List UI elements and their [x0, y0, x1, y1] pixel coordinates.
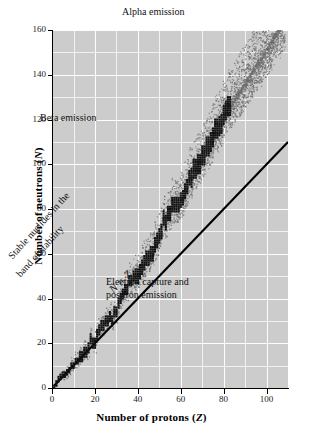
unstable-nuclide-point: [189, 150, 190, 151]
unstable-nuclide-point: [216, 107, 217, 108]
unstable-nuclide-point: [252, 73, 253, 74]
stable-nuclide-point: [165, 221, 167, 223]
stable-nuclide-point: [118, 306, 120, 308]
unstable-nuclide-point: [234, 96, 235, 97]
stable-nuclide-point: [85, 351, 87, 353]
stable-nuclide-point: [214, 127, 216, 129]
unstable-nuclide-point: [251, 77, 252, 78]
stable-nuclide-point: [105, 324, 107, 326]
stable-nuclide-point: [64, 376, 66, 378]
unstable-nuclide-point: [264, 62, 265, 63]
unstable-nuclide-point: [209, 130, 210, 131]
stable-nuclide-point: [210, 145, 212, 147]
unstable-nuclide-point: [177, 181, 178, 182]
unstable-nuclide-point: [161, 208, 162, 209]
unstable-nuclide-point: [255, 77, 256, 78]
unstable-nuclide-point: [254, 73, 255, 74]
unstable-nuclide-point: [176, 218, 177, 219]
unstable-nuclide-point: [245, 87, 246, 88]
unstable-nuclide-point: [250, 57, 251, 58]
stable-nuclide-point: [150, 246, 152, 248]
stable-nuclide-point: [178, 199, 180, 201]
unstable-nuclide-point: [137, 264, 138, 265]
stable-nuclide-point: [152, 255, 154, 257]
unstable-nuclide-point: [273, 33, 274, 34]
unstable-nuclide-point: [205, 126, 206, 127]
unstable-nuclide-point: [244, 69, 245, 70]
unstable-nuclide-point: [130, 266, 131, 267]
stable-nuclide-point: [154, 251, 156, 253]
unstable-nuclide-point: [168, 203, 169, 204]
unstable-nuclide-point: [111, 309, 112, 310]
stable-nuclide-point: [111, 324, 113, 326]
unstable-nuclide-point: [257, 43, 258, 44]
stable-nuclide-point: [229, 107, 231, 109]
stable-nuclide-point: [92, 342, 94, 344]
stable-nuclide-point: [167, 217, 169, 219]
unstable-nuclide-point: [260, 76, 261, 77]
stable-nuclide-point: [188, 174, 190, 176]
unstable-nuclide-point: [77, 357, 78, 358]
unstable-nuclide-point: [196, 186, 197, 187]
stable-nuclide-point: [171, 208, 173, 210]
stable-nuclide-point: [81, 360, 83, 362]
stable-nuclide-point: [109, 315, 111, 317]
stable-nuclide-point: [154, 242, 156, 244]
stable-nuclide-point: [216, 123, 218, 125]
stable-nuclide-point: [145, 259, 147, 261]
unstable-nuclide-point: [220, 98, 221, 99]
y-axis-tick-label: 20: [37, 337, 46, 347]
unstable-nuclide-point: [163, 203, 164, 204]
unstable-nuclide-point: [165, 235, 166, 236]
stable-nuclide-point: [225, 110, 227, 112]
stable-nuclide-point: [186, 192, 188, 194]
stable-nuclide-point: [68, 367, 70, 369]
stable-nuclide-point: [165, 226, 167, 228]
unstable-nuclide-point: [220, 142, 221, 143]
unstable-nuclide-point: [261, 56, 262, 57]
unstable-nuclide-point: [253, 69, 254, 70]
stable-nuclide-point: [72, 367, 74, 369]
unstable-nuclide-point: [267, 59, 268, 60]
stable-nuclide-point: [210, 134, 212, 136]
stable-nuclide-point: [163, 212, 165, 214]
unstable-nuclide-point: [268, 66, 269, 67]
unstable-nuclide-point: [246, 80, 247, 81]
unstable-nuclide-point: [245, 106, 246, 107]
stable-nuclide-point: [195, 159, 197, 161]
unstable-nuclide-point: [271, 53, 272, 54]
unstable-nuclide-point: [124, 301, 125, 302]
unstable-nuclide-point: [75, 367, 76, 368]
unstable-nuclide-point: [272, 46, 273, 47]
stable-nuclide-point: [205, 150, 207, 152]
stable-nuclide-point: [143, 259, 145, 261]
unstable-nuclide-point: [246, 71, 247, 72]
unstable-nuclide-point: [111, 302, 112, 303]
unstable-nuclide-point: [192, 148, 193, 149]
stable-nuclide-point: [148, 257, 150, 259]
unstable-nuclide-point: [277, 51, 278, 52]
stable-nuclide-point: [79, 360, 81, 362]
unstable-nuclide-point: [249, 52, 250, 53]
unstable-nuclide-point: [242, 66, 243, 67]
unstable-nuclide-point: [263, 60, 264, 61]
stable-nuclide-point: [165, 215, 167, 217]
stable-nuclide-point: [92, 338, 94, 340]
stable-nuclide-point: [223, 105, 225, 107]
unstable-nuclide-point: [214, 104, 215, 105]
unstable-nuclide-point: [231, 88, 232, 89]
unstable-nuclide-point: [280, 51, 281, 52]
stable-nuclide-point: [220, 127, 222, 129]
stable-nuclide-point: [216, 119, 218, 121]
unstable-nuclide-point: [250, 39, 251, 40]
stable-nuclide-point: [109, 313, 111, 315]
stable-nuclide-point: [178, 208, 180, 210]
stable-nuclide-point: [227, 98, 229, 100]
unstable-nuclide-point: [89, 356, 90, 357]
unstable-nuclide-point: [170, 203, 171, 204]
stable-nuclide-point: [227, 112, 229, 114]
unstable-nuclide-point: [180, 186, 181, 187]
stable-nuclide-point: [143, 266, 145, 268]
stable-nuclide-point: [60, 378, 62, 380]
unstable-nuclide-point: [270, 46, 271, 47]
